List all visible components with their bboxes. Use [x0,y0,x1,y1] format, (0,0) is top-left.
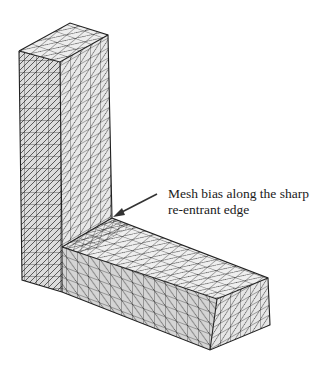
column-front-face [19,51,62,292]
annotation-line-2: re-entrant edge [168,202,309,218]
annotation-arrow [113,194,157,217]
annotation-line-1: Mesh bias along the sharp [168,186,309,202]
column-side-face [60,35,112,247]
annotation-label: Mesh bias along the sharp re-entrant edg… [168,186,309,218]
